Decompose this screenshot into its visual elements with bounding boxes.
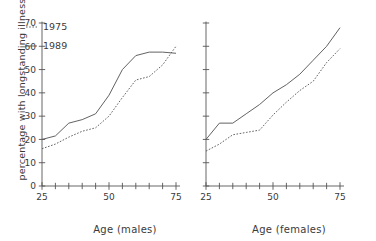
y-tick-label: 30 bbox=[25, 111, 37, 121]
x-tick-label: 25 bbox=[36, 192, 47, 202]
y-tick-label: 10 bbox=[25, 158, 37, 168]
plot-area-females: 255075 bbox=[186, 0, 376, 210]
series-line-1975 bbox=[206, 49, 340, 151]
panel-males: 01020304050607025507519751989 Age (males… bbox=[0, 0, 190, 241]
legend-label-1975: 1975 bbox=[43, 21, 67, 32]
y-tick-label: 40 bbox=[25, 88, 37, 98]
x-tick-label: 75 bbox=[334, 192, 345, 202]
x-tick-label: 50 bbox=[103, 192, 115, 202]
x-axis-title-females: Age (females) bbox=[186, 224, 376, 235]
figure: percentage with longstanding illness 010… bbox=[0, 0, 376, 241]
y-tick-label: 20 bbox=[25, 135, 37, 145]
plot-area-males: 01020304050607025507519751989 bbox=[0, 0, 190, 210]
series-line-1975 bbox=[42, 46, 176, 148]
series-line-1989 bbox=[206, 28, 340, 140]
y-tick-label: 50 bbox=[25, 65, 37, 75]
series-line-1989 bbox=[42, 52, 176, 139]
panel-females: 255075 Age (females) bbox=[186, 0, 376, 241]
legend-label-1989: 1989 bbox=[43, 40, 67, 51]
y-tick-label: 60 bbox=[25, 42, 37, 52]
x-tick-label: 75 bbox=[170, 192, 181, 202]
x-tick-label: 50 bbox=[267, 192, 279, 202]
x-tick-label: 25 bbox=[200, 192, 211, 202]
y-tick-label: 0 bbox=[30, 181, 36, 191]
